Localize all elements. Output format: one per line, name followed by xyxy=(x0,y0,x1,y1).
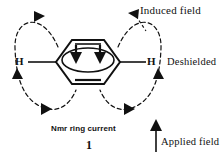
figure-drawing xyxy=(0,0,224,157)
loop-arrowhead-bottom-right-icon xyxy=(124,103,135,115)
hexagon-outline xyxy=(56,40,120,84)
figure-caption: Nmr ring current xyxy=(51,125,116,133)
ring-current-path xyxy=(62,48,114,72)
figure-number: 1 xyxy=(86,139,92,151)
applied-field-arrowhead-icon xyxy=(150,119,162,131)
loop-arrowhead-bottom-left-icon xyxy=(41,103,52,115)
loop-arrowhead-mid-left-icon xyxy=(12,68,23,79)
applied-field-label: Applied field xyxy=(161,137,219,148)
nmr-ring-current-figure: Induced field Deshielded Applied field H… xyxy=(0,0,224,157)
hydrogen-label-right: H xyxy=(147,56,156,67)
ring-current-arrow-left-head-icon xyxy=(70,52,82,64)
loop-arrowhead-top-left-icon xyxy=(34,11,45,22)
hydrogen-label-left: H xyxy=(15,56,24,67)
induced-field-arrowhead-icon xyxy=(128,9,139,19)
benzene-ring xyxy=(56,40,120,84)
loop-arrowhead-mid-right-icon xyxy=(153,68,164,79)
induced-field-loop-left xyxy=(15,22,76,109)
induced-field-label: Induced field xyxy=(140,5,201,16)
ring-current-ellipse xyxy=(62,45,114,72)
ring-current-arrow-right-head-icon xyxy=(94,52,106,64)
deshielded-label: Deshielded xyxy=(167,57,216,68)
field-line-left-outer xyxy=(15,22,76,109)
